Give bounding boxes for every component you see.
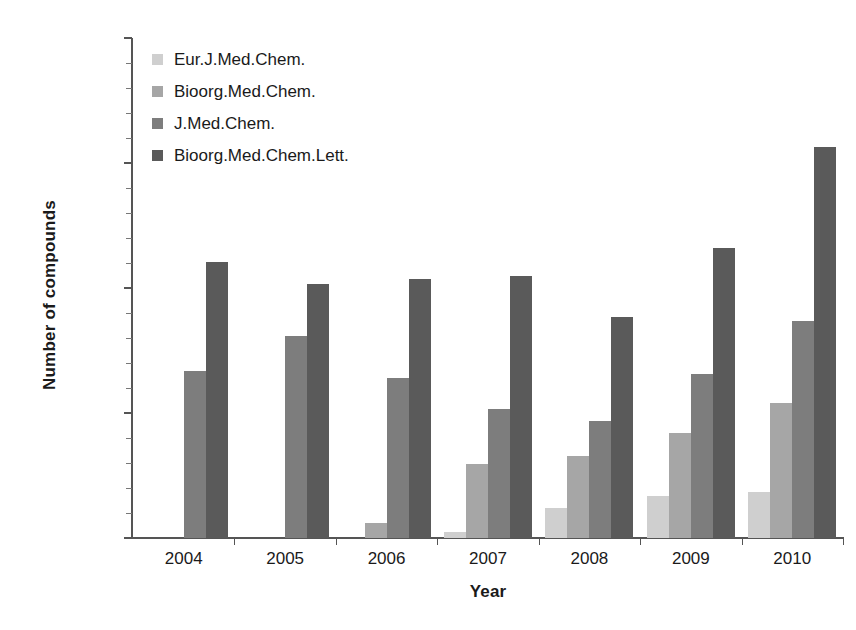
- y-tick-major: [124, 162, 132, 164]
- bar-chart: Number of compounds 05000100001500020000…: [0, 0, 856, 630]
- bar: [589, 421, 611, 539]
- bar: [770, 403, 792, 538]
- legend-item-3: Bioorg.Med.Chem.Lett.: [152, 139, 349, 171]
- y-tick-minor: [126, 263, 132, 264]
- y-tick-minor: [126, 363, 132, 364]
- bar: [387, 378, 409, 538]
- legend-item-0: Eur.J.Med.Chem.: [152, 43, 349, 75]
- x-tick: [336, 537, 337, 545]
- y-tick-minor: [126, 488, 132, 489]
- bar: [444, 532, 466, 538]
- y-tick-minor: [126, 238, 132, 239]
- x-tick-label: 2010: [737, 549, 847, 569]
- bar: [647, 496, 669, 539]
- x-tick-label: 2008: [534, 549, 644, 569]
- x-tick-label: 2004: [129, 549, 239, 569]
- bar: [567, 456, 589, 539]
- bar-group-2008: [539, 38, 640, 538]
- bar: [307, 284, 329, 538]
- y-tick-minor: [126, 438, 132, 439]
- legend-swatch-icon: [152, 54, 163, 65]
- y-tick-minor: [126, 463, 132, 464]
- y-tick-major: [124, 287, 132, 289]
- legend-label: Bioorg.Med.Chem.Lett.: [174, 147, 349, 164]
- bar: [409, 279, 431, 538]
- bar: [365, 523, 387, 539]
- y-tick-minor: [126, 188, 132, 189]
- legend-swatch-icon: [152, 118, 163, 129]
- y-tick-minor: [126, 113, 132, 114]
- x-tick-label: 2009: [636, 549, 746, 569]
- x-tick: [742, 537, 743, 545]
- y-tick-minor: [126, 213, 132, 214]
- legend: Eur.J.Med.Chem.Bioorg.Med.Chem.J.Med.Che…: [152, 43, 349, 171]
- bar: [510, 276, 532, 539]
- bar-group-2009: [640, 38, 741, 538]
- legend-label: Eur.J.Med.Chem.: [174, 51, 305, 68]
- bar: [545, 508, 567, 538]
- y-tick-major: [124, 37, 132, 39]
- y-tick-minor: [126, 63, 132, 64]
- x-tick-label: 2006: [332, 549, 442, 569]
- legend-item-1: Bioorg.Med.Chem.: [152, 75, 349, 107]
- bar: [748, 492, 770, 538]
- bar: [184, 371, 206, 539]
- bar: [713, 248, 735, 538]
- y-tick-minor: [126, 338, 132, 339]
- y-tick-minor: [126, 138, 132, 139]
- bar: [285, 336, 307, 539]
- x-tick: [539, 537, 540, 545]
- legend-swatch-icon: [152, 150, 163, 161]
- bar: [488, 409, 510, 538]
- y-tick-major: [124, 412, 132, 414]
- y-tick-minor: [126, 88, 132, 89]
- bar: [669, 433, 691, 538]
- bar: [466, 464, 488, 538]
- y-tick-minor: [126, 513, 132, 514]
- x-tick-label: 2007: [433, 549, 543, 569]
- bar: [814, 147, 836, 538]
- y-axis-title: Number of compounds: [40, 65, 60, 525]
- legend-item-2: J.Med.Chem.: [152, 107, 349, 139]
- x-axis-title: Year: [133, 582, 843, 602]
- y-tick-minor: [126, 313, 132, 314]
- legend-swatch-icon: [152, 86, 163, 97]
- bar: [206, 262, 228, 538]
- y-tick-minor: [126, 388, 132, 389]
- x-tick: [843, 537, 844, 545]
- bar: [611, 317, 633, 538]
- bar: [691, 374, 713, 538]
- x-tick: [437, 537, 438, 545]
- bar-group-2006: [336, 38, 437, 538]
- bar: [792, 321, 814, 539]
- bar-group-2010: [742, 38, 843, 538]
- legend-label: J.Med.Chem.: [174, 115, 275, 132]
- x-tick-label: 2005: [230, 549, 340, 569]
- x-tick: [234, 537, 235, 545]
- bar-group-2007: [437, 38, 538, 538]
- x-tick: [640, 537, 641, 545]
- legend-label: Bioorg.Med.Chem.: [174, 83, 316, 100]
